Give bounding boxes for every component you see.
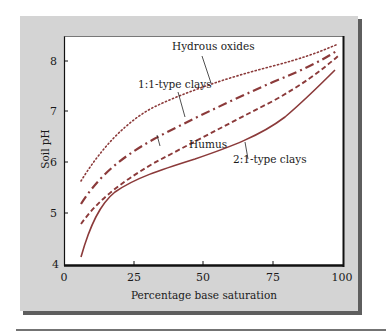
x-tick-label-0: 0 (61, 271, 68, 284)
x-tick-label-50: 50 (196, 271, 210, 284)
y-tick-label-6: 6 (50, 156, 57, 169)
y-tick-label-8: 8 (50, 55, 57, 68)
label-1-1-clays: 1:1-type clays (138, 78, 212, 90)
label-hydrous-oxides: Hydrous oxides (172, 40, 255, 52)
x-tick-label-25: 25 (127, 271, 141, 284)
label-humus: Humus (189, 138, 227, 150)
y-axis-title: Soil pH (39, 129, 51, 168)
x-axis-title: Percentage base saturation (131, 289, 277, 301)
x-tick-label-75: 75 (266, 271, 280, 284)
y-tick-label-7: 7 (50, 105, 57, 118)
y-tick-label-4: 4 (52, 258, 59, 271)
label-2-1-clays: 2:1-type clays (233, 153, 307, 165)
y-tick-label-5: 5 (50, 207, 57, 220)
chart-figure: 8 7 6 5 4 0 25 50 75 100 Percentage base… (0, 0, 386, 332)
x-tick-label-100: 100 (332, 271, 353, 284)
